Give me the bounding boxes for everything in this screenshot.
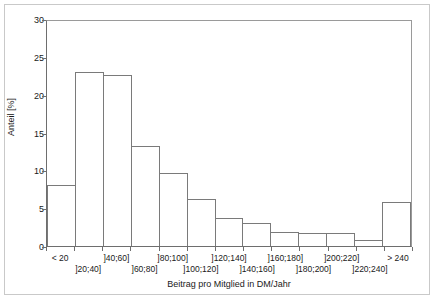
x-axis-label: Beitrag pro Mitglied in DM/Jahr bbox=[46, 279, 412, 289]
y-tick-label: 0 bbox=[0, 243, 44, 252]
y-tick-label: 15 bbox=[0, 129, 44, 138]
bar bbox=[103, 75, 132, 246]
x-tick-label: ]120;140] bbox=[211, 254, 246, 263]
bar bbox=[215, 218, 244, 246]
x-tick-label: ]220;240] bbox=[352, 265, 387, 274]
x-tick-label: ]100;120] bbox=[183, 265, 218, 274]
bar bbox=[47, 185, 76, 246]
bar bbox=[75, 72, 104, 246]
x-tick-label: ]200;220] bbox=[324, 254, 359, 263]
bar bbox=[159, 173, 188, 246]
y-tick-label: 25 bbox=[0, 53, 44, 62]
x-tick-label: ]180;200] bbox=[296, 265, 331, 274]
bar bbox=[326, 233, 355, 246]
y-axis-label: Anteil [%] bbox=[6, 72, 16, 162]
x-tick-label: ]140;160] bbox=[239, 265, 274, 274]
x-tick-label: ]60;80] bbox=[132, 265, 158, 274]
x-tick-mark bbox=[74, 247, 75, 251]
x-tick-label: ]160;180] bbox=[268, 254, 303, 263]
x-tick-mark bbox=[46, 247, 47, 251]
x-tick-mark bbox=[243, 247, 244, 251]
y-tick-label: 10 bbox=[0, 167, 44, 176]
x-tick-mark bbox=[159, 247, 160, 251]
y-tick-label: 30 bbox=[0, 16, 44, 25]
bar bbox=[131, 146, 160, 246]
bar bbox=[270, 232, 299, 246]
bar-series bbox=[47, 21, 411, 246]
x-tick-mark bbox=[102, 247, 103, 251]
x-tick-label: ]40;60] bbox=[103, 254, 129, 263]
plot-area bbox=[46, 20, 412, 247]
x-tick-mark bbox=[384, 247, 385, 251]
x-tick-label: ]20;40] bbox=[75, 265, 101, 274]
x-tick-mark bbox=[328, 247, 329, 251]
histogram-figure: Anteil [%] 051015202530 < 20]20;40]]40;6… bbox=[0, 0, 434, 299]
x-tick-mark bbox=[130, 247, 131, 251]
y-tick-label: 5 bbox=[0, 205, 44, 214]
x-tick-mark bbox=[271, 247, 272, 251]
y-tick-label: 20 bbox=[0, 91, 44, 100]
bar bbox=[242, 223, 271, 246]
bar bbox=[187, 199, 216, 246]
bar bbox=[354, 240, 383, 246]
x-tick-label: < 20 bbox=[52, 254, 69, 263]
bar bbox=[382, 202, 411, 246]
x-tick-label: > 240 bbox=[387, 254, 409, 263]
x-tick-mark bbox=[215, 247, 216, 251]
x-tick-mark bbox=[412, 247, 413, 251]
x-tick-mark bbox=[356, 247, 357, 251]
x-tick-mark bbox=[299, 247, 300, 251]
bar bbox=[298, 233, 327, 246]
x-tick-label: ]80;100] bbox=[157, 254, 188, 263]
x-tick-mark bbox=[187, 247, 188, 251]
